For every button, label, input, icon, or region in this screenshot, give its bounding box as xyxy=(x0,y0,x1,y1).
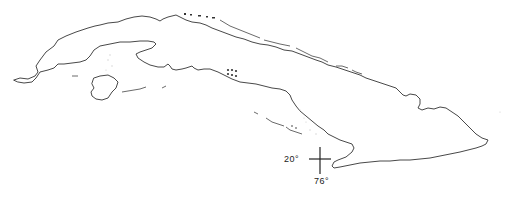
southern-cays-east xyxy=(162,86,166,88)
cuba-outline-map xyxy=(0,0,516,198)
southern-cays-reina xyxy=(254,112,317,135)
latitude-label: 20° xyxy=(284,154,299,164)
inland-lakes xyxy=(227,69,237,77)
northern-cays xyxy=(184,13,362,74)
southern-cays-west xyxy=(122,87,146,92)
longitude-label: 76° xyxy=(314,176,329,186)
graticule-cross xyxy=(309,147,331,174)
main-island-coastline xyxy=(14,15,488,168)
isla-de-la-juventud xyxy=(91,75,118,100)
